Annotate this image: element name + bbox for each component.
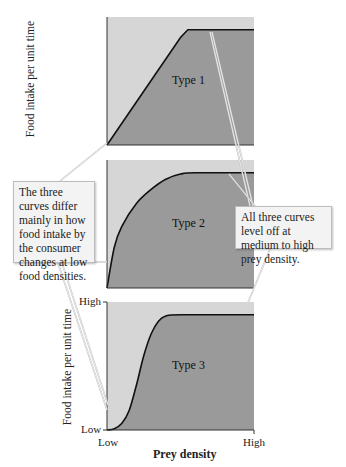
y-tick-high: High xyxy=(79,295,101,307)
x-tick-high: High xyxy=(243,436,265,448)
panel-label-type-1: Type 1 xyxy=(172,73,205,87)
callout-leader-fill-1 xyxy=(60,143,107,181)
x-axis-title: Prey density xyxy=(153,447,216,462)
x-tick-low: Low xyxy=(98,436,118,448)
panel-label-type-2: Type 2 xyxy=(172,216,205,230)
y-axis-label-bottom: Food intake per unit time xyxy=(61,297,73,437)
right-callout: All three curves level off at medium to … xyxy=(235,206,332,249)
y-axis-label-top: Food intake per unit time xyxy=(24,9,36,149)
panel-label-type-3: Type 3 xyxy=(172,358,205,372)
y-tick-low: Low xyxy=(81,423,101,435)
left-callout: The three curves differ mainly in how fo… xyxy=(13,181,95,263)
